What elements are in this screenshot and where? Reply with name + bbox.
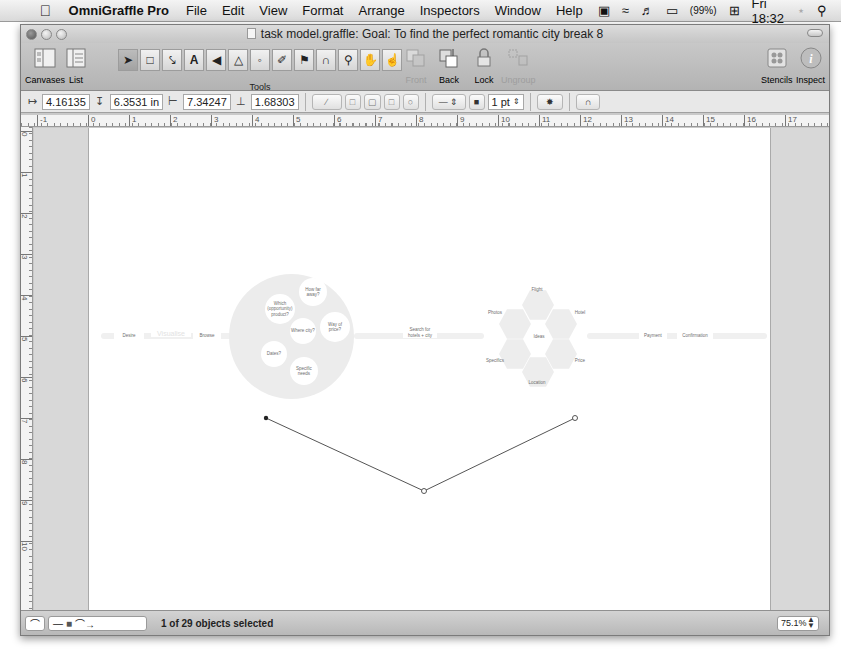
shape-cornered-button[interactable]: □ <box>384 94 400 110</box>
x-position-icon: ↦ <box>25 95 39 108</box>
volume-icon[interactable]: ♬ <box>641 3 654 18</box>
list-button[interactable]: List <box>63 45 89 85</box>
menu-extras: ▣ ≈ ♬ ▭ (99%) ⊞ Fri 18:32 ⋆ ⚲ <box>598 0 841 26</box>
shape-tool-icon[interactable]: □ <box>140 49 160 71</box>
height-icon: ⊥ <box>234 95 248 108</box>
shape-rect-button[interactable]: □ <box>345 94 361 110</box>
stencils-button[interactable]: Stencils <box>761 45 793 85</box>
zoom-tool-icon[interactable]: ⚲ <box>338 49 358 71</box>
ruler-ticks <box>29 127 32 611</box>
canvases-icon <box>32 45 58 71</box>
line-tool-icon[interactable]: ⤥ <box>162 49 182 71</box>
separator <box>530 93 531 111</box>
y-position-icon: ↧ <box>93 95 107 108</box>
bring-to-front-button[interactable]: Front <box>403 45 429 85</box>
list-label: List <box>69 75 83 85</box>
toolbar-toggle-button[interactable] <box>807 29 823 37</box>
magnet-button[interactable]: ∩ <box>576 94 600 110</box>
status-bar: ⌒ — ■ ⌒→ 1 of 29 objects selected 75.1% … <box>21 610 829 635</box>
shape-rounded-button[interactable]: ▢ <box>364 94 381 110</box>
tools-palette: ➤ □ ⤥ A ◀ △ ◦ ✐ ⚑ ∩ ⚲ ✋ ☝ Tools <box>118 49 402 71</box>
rubber-stamp-tool-icon[interactable]: ∩ <box>316 49 336 71</box>
menu-inspectors[interactable]: Inspectors <box>420 3 480 18</box>
wifi-icon[interactable]: ≈ <box>622 3 629 18</box>
ruler-mark: 7 <box>375 115 382 126</box>
line-style-popup[interactable]: — ■ ⌒→ <box>48 616 147 631</box>
spotlight-search-icon[interactable]: ⚲ <box>817 3 827 18</box>
line-type-popup[interactable]: ⌒ <box>25 616 45 631</box>
canvases-button[interactable]: Canvases <box>25 45 65 85</box>
line-style-popup[interactable]: — ⇕ <box>432 94 466 110</box>
fill-color-button[interactable]: ∕ <box>312 94 342 110</box>
document-icon <box>247 28 256 39</box>
ruler-mark: 8 <box>416 115 423 126</box>
clock[interactable]: Fri 18:32 <box>752 0 785 26</box>
hand-tool-icon[interactable]: ✋ <box>360 49 380 71</box>
inspect-button[interactable]: i Inspect <box>796 45 825 85</box>
stamp-tool-icon[interactable]: ⚑ <box>294 49 314 71</box>
ruler-mark: 3 <box>21 254 32 264</box>
stroke-width-value: 1 pt <box>492 95 510 109</box>
toolbar: Canvases List ➤ □ ⤥ A ◀ △ ◦ ✐ ⚑ ∩ ⚲ ✋ <box>21 43 829 91</box>
front-label: Front <box>405 75 426 85</box>
tools-label: Tools <box>118 82 402 92</box>
apple-icon[interactable]:  <box>36 2 55 19</box>
format-bar: ↦ 4.16135 ↧ 6.3531 in ⊢ 7.34247 ⊥ 1.6830… <box>21 91 829 113</box>
menu-edit[interactable]: Edit <box>222 3 244 18</box>
text-tool-icon[interactable]: A <box>184 49 204 71</box>
browse-tool-icon[interactable]: ☝ <box>382 49 402 71</box>
pen-tool-icon[interactable]: △ <box>228 49 248 71</box>
ruler-mark: -1 <box>37 115 47 126</box>
style-brush-tool-icon[interactable]: ◦ <box>250 49 270 71</box>
canvas-page[interactable]: Desire Visualise Browse Which (opportuni… <box>88 128 771 611</box>
battery-icon[interactable]: ▭ <box>666 3 678 18</box>
bluetooth-icon[interactable]: ⋆ <box>797 3 805 18</box>
height-field[interactable]: 1.68303 <box>251 94 299 110</box>
line-icon: — <box>53 618 63 629</box>
stepper-arrows-icon[interactable]: ▲▼ <box>807 617 815 629</box>
lock-button[interactable]: Lock <box>471 45 497 85</box>
menu-app-name[interactable]: OmniGraffle Pro <box>69 3 169 18</box>
display-icon[interactable]: ▣ <box>598 3 610 18</box>
horizontal-ruler[interactable]: -1 0 1 2 3 4 5 6 7 8 9 10 11 12 13 14 15… <box>21 115 829 127</box>
window-title-text: task model.graffle: Goal: To find the pe… <box>261 27 603 41</box>
width-field[interactable]: 7.34247 <box>183 94 231 110</box>
selection-tool-icon[interactable]: ➤ <box>118 49 138 71</box>
diagram-tool-icon[interactable]: ◀ <box>206 49 226 71</box>
ruler-mark: 1 <box>21 172 32 182</box>
stepper-arrows-icon[interactable]: ⇕ <box>513 95 520 109</box>
menu-help[interactable]: Help <box>556 3 583 18</box>
stroke-color-swatch[interactable]: ■ <box>469 94 485 110</box>
menu-window[interactable]: Window <box>495 3 541 18</box>
ruler-mark: 2 <box>170 115 177 126</box>
info-icon: i <box>798 45 824 71</box>
selected-line[interactable] <box>89 128 772 611</box>
stroke-width-stepper[interactable]: 1 pt⇕ <box>488 94 524 110</box>
vertical-ruler[interactable]: 0 1 2 3 4 5 6 7 8 9 10 <box>21 127 33 611</box>
menu-arrange[interactable]: Arrange <box>358 3 404 18</box>
send-back-icon <box>436 45 462 71</box>
window-title: task model.graffle: Goal: To find the pe… <box>21 27 829 41</box>
list-icon <box>63 45 89 71</box>
line-start-handle <box>264 416 268 420</box>
menu-view[interactable]: View <box>259 3 287 18</box>
title-bar[interactable]: task model.graffle: Goal: To find the pe… <box>21 25 829 43</box>
x-position-field[interactable]: 4.16135 <box>42 94 90 110</box>
ungroup-button[interactable]: Ungroup <box>501 45 536 85</box>
input-source-icon[interactable]: ⊞ <box>729 3 740 18</box>
menu-format[interactable]: Format <box>302 3 343 18</box>
menu-file[interactable]: File <box>186 3 207 18</box>
bring-front-icon <box>403 45 429 71</box>
ruler-mark: 12 <box>580 115 592 126</box>
lock-icon <box>471 45 497 71</box>
canvas-scroll-area[interactable]: Desire Visualise Browse Which (opportuni… <box>34 128 829 611</box>
ruler-mark: 10 <box>498 115 510 126</box>
shadow-button[interactable]: ✸ <box>537 94 563 110</box>
y-position-field[interactable]: 6.3531 in <box>110 94 163 110</box>
back-label: Back <box>439 75 459 85</box>
battery-percent[interactable]: (99%) <box>690 5 717 16</box>
shape-circle-button[interactable]: ○ <box>403 94 419 110</box>
magnet-tool-icon[interactable]: ✐ <box>272 49 292 71</box>
send-to-back-button[interactable]: Back <box>436 45 462 85</box>
zoom-level-stepper[interactable]: 75.1% ▲▼ <box>777 616 819 631</box>
